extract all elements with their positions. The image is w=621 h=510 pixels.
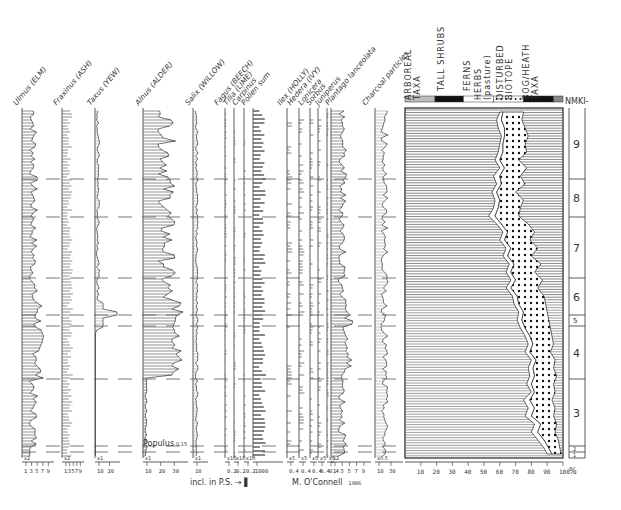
zone-label: 8 [573, 192, 580, 205]
taxon-column: x0.51030 [375, 108, 403, 474]
zone-label: 3 [573, 407, 580, 420]
zone-label: 1 [573, 452, 576, 458]
pollen-diagram: x213579x213579x11020x1102030x110x100.2x1… [0, 0, 621, 510]
tick-label: 5 [35, 468, 38, 474]
summary-tick-label: 70 [512, 468, 520, 475]
summary-tick-label: 40 [464, 468, 472, 475]
svg-text:%: % [569, 467, 577, 476]
zone-column: 987654321 [569, 108, 585, 458]
exaggeration-label: x5 [312, 455, 318, 461]
taxon-column: x1102030 [143, 108, 188, 474]
exaggeration-label: x1 [195, 455, 201, 461]
tick-label: 20 [108, 468, 115, 474]
tick-label: 30 [389, 468, 396, 474]
tick-label: 0.4 [289, 468, 300, 474]
summary-group-label: HERBS (pasture) [474, 54, 492, 100]
author-credit: M. O'Connell1986 [292, 478, 361, 487]
zone-label: 9 [573, 138, 580, 151]
zone-label: 7 [573, 242, 580, 255]
exaggeration-label: x10 [246, 455, 255, 461]
taxon-column: x213579 [331, 108, 371, 474]
zone-prefix: NMKI- [565, 97, 588, 106]
tick-label: 1000 [255, 468, 268, 474]
tick-label: 7 [355, 468, 358, 474]
exaggeration-label: x0.5 [377, 455, 388, 461]
summary-tick-label: 20 [433, 468, 441, 475]
taxa-columns: x213579x213579x11020x1102030x110x100.2x1… [22, 108, 403, 474]
summary-tick-label: 10 [417, 468, 425, 475]
summary-tick-label: 50 [480, 468, 488, 475]
tick-label: 9 [362, 468, 365, 474]
tick-label: 30 [172, 468, 179, 474]
exaggeration-label: x2 [333, 455, 339, 461]
exaggeration-label: x1 [97, 455, 103, 461]
taxon-column: x213579 [62, 108, 84, 474]
zone-label: 6 [573, 291, 580, 304]
summary-group-label: DISTURBED BIOTOPE [496, 44, 514, 100]
tick-label: 0.4 [301, 468, 312, 474]
tick-label: 10 [377, 468, 384, 474]
exaggeration-label: x2 [64, 455, 70, 461]
tick-label: 1 [333, 468, 336, 474]
zone-label: 5 [573, 317, 577, 325]
tick-label: 9 [78, 468, 81, 474]
exaggeration-label: x5 [320, 455, 326, 461]
summary-group-label: TALL SHRUBS [437, 26, 446, 91]
tick-label: 10 [97, 468, 104, 474]
tick-label: 0.2 [236, 468, 246, 474]
tick-label: 9 [46, 468, 49, 474]
taxon-column: x11020 [95, 108, 120, 474]
exaggeration-label: x1 [145, 455, 151, 461]
exaggeration-label: x5 [289, 455, 295, 461]
zone-label: 4 [573, 347, 580, 360]
summary-tick-label: 80 [527, 468, 535, 475]
taxon-column: x50.4 [318, 108, 331, 474]
taxon-column: x110 [193, 108, 208, 474]
taxon-column: 1000 [253, 108, 283, 474]
taxon-column: x213579 [22, 108, 54, 474]
taxon-column: x50.4 [310, 108, 323, 474]
summary-group-label: BOG/HEATH TAXA [522, 44, 540, 100]
populus-annotation: Populus [143, 439, 174, 448]
tick-label: 10 [145, 468, 152, 474]
tick-label: 1 [24, 468, 27, 474]
tick-label: 3 [340, 468, 343, 474]
summary-group-label: FERNS [463, 60, 472, 91]
tick-label: 5 [347, 468, 350, 474]
footnote-pollen-sum: incl. in P.S. → ▌ [190, 478, 251, 487]
exaggeration-label: x5 [301, 455, 307, 461]
tick-label: 7 [41, 468, 44, 474]
summary-group-label: ARBOREAL TAXA [404, 49, 422, 100]
exaggeration-label: x2 [24, 455, 30, 461]
summary-tick-label: 90 [543, 468, 551, 475]
summary-diagram: 102030405060708090100% [405, 96, 577, 476]
summary-tick-label: 60 [496, 468, 504, 475]
tick-label: 10 [195, 468, 202, 474]
taxon-column: x50.4 [287, 108, 300, 474]
summary-tick-label: 30 [448, 468, 456, 475]
tick-label: 20 [159, 468, 166, 474]
tick-label: 3 [30, 468, 33, 474]
taxon-column: x100.2 [225, 108, 237, 474]
svg-text:0.15: 0.15 [176, 441, 187, 447]
